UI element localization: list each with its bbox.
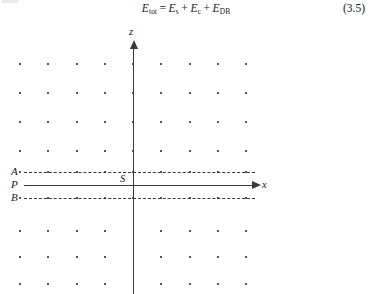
lattice-dot-r1-c0 — [19, 92, 21, 94]
lattice-dot-below-r2-c6 — [189, 283, 191, 285]
lattice-dot-r2-c6 — [189, 121, 191, 123]
z-axis-arrow-icon — [130, 40, 138, 49]
lattice-dot-below-r1-c5 — [160, 256, 162, 258]
lattice-dot-r0-c5 — [160, 63, 162, 65]
equation-number: (3.5) — [343, 2, 365, 14]
lattice-dot-below-r0-c1 — [47, 230, 49, 232]
lattice-dot-below-r2-c2 — [76, 283, 78, 285]
lattice-dot-r0-c7 — [217, 63, 219, 65]
x-axis-arrow-icon — [252, 181, 261, 189]
lattice-dot-below-r2-c8 — [245, 283, 247, 285]
lattice-dot-below-r1-c0 — [19, 256, 21, 258]
lattice-dot-below-r1-c8 — [245, 256, 247, 258]
line-p-label: P — [11, 179, 18, 190]
lattice-dot-below-r1-c1 — [47, 256, 49, 258]
lattice-dot-r0-c3 — [104, 63, 106, 65]
lattice-dot-r0-c6 — [189, 63, 191, 65]
lattice-dot-r3-c2 — [76, 150, 78, 152]
lattice-dot-below-r2-c0 — [19, 283, 21, 285]
origin-point-label: S — [120, 174, 125, 185]
lattice-dot-r1-c3 — [104, 92, 106, 94]
lattice-dot-r0-c8 — [245, 63, 247, 65]
lattice-dot-below-r0-c2 — [76, 230, 78, 232]
reference-line-b — [24, 198, 255, 199]
lattice-dot-r1-c2 — [76, 92, 78, 94]
lattice-dot-below-r1-c2 — [76, 256, 78, 258]
lattice-dot-r3-c0 — [19, 150, 21, 152]
x-axis-label: x — [262, 180, 267, 191]
lattice-dot-r2-c0 — [19, 121, 21, 123]
lattice-dot-below-r2-c7 — [217, 283, 219, 285]
lattice-dot-r3-c8 — [245, 150, 247, 152]
figure-canvas: z x A P B S — [0, 24, 372, 294]
z-axis-label: z — [129, 27, 133, 38]
equation-plus-2: + — [201, 2, 213, 14]
lattice-dot-below-r0-c3 — [104, 230, 106, 232]
equation-lhs-symbol: E — [142, 2, 149, 14]
equation-equals-sign: = — [157, 2, 169, 14]
lattice-dot-r2-c5 — [160, 121, 162, 123]
line-b-label: B — [11, 192, 18, 203]
lattice-dot-below-r0-c0 — [19, 230, 21, 232]
equation-term-3-symbol: E — [213, 2, 220, 14]
lattice-dot-below-r1-c6 — [189, 256, 191, 258]
line-a-label: A — [11, 166, 18, 177]
lattice-dot-r0-c0 — [19, 63, 21, 65]
lattice-dot-below-r0-c8 — [245, 230, 247, 232]
lattice-dot-below-r0-c5 — [160, 230, 162, 232]
equation-term-3-subscript: DB — [220, 7, 230, 16]
lattice-dot-r1-c7 — [217, 92, 219, 94]
reference-line-a — [24, 172, 255, 173]
equation-term-1-symbol: E — [169, 2, 176, 14]
lattice-dot-below-r1-c7 — [217, 256, 219, 258]
lattice-dot-r3-c5 — [160, 150, 162, 152]
lattice-dot-r3-c7 — [217, 150, 219, 152]
equation-term-1-subscript: s — [176, 7, 179, 16]
lattice-dot-below-r2-c3 — [104, 283, 106, 285]
equation-expression: Etot=Es+Ec+EDB — [0, 2, 372, 14]
lattice-dot-r3-c6 — [189, 150, 191, 152]
lattice-dot-below-r0-c6 — [189, 230, 191, 232]
x-axis-line — [24, 185, 257, 186]
lattice-dot-below-r2-c5 — [160, 283, 162, 285]
lattice-dot-r3-c3 — [104, 150, 106, 152]
equation-plus-1: + — [179, 2, 191, 14]
z-axis-line — [133, 47, 134, 294]
lattice-dot-r0-c2 — [76, 63, 78, 65]
lattice-dot-r2-c3 — [104, 121, 106, 123]
equation-term-2-subscript: c — [198, 7, 201, 16]
coordinate-figure: z x A P B S — [0, 24, 372, 294]
equation-row: Etot=Es+Ec+EDB (3.5) — [0, 0, 372, 24]
lattice-dot-r1-c5 — [160, 92, 162, 94]
lattice-dot-r3-c1 — [47, 150, 49, 152]
lattice-dot-line-b-c0 — [19, 197, 21, 199]
lattice-dot-r2-c8 — [245, 121, 247, 123]
lattice-dot-r1-c1 — [47, 92, 49, 94]
lattice-dot-r1-c8 — [245, 92, 247, 94]
lattice-dot-r2-c1 — [47, 121, 49, 123]
equation-term-2-symbol: E — [190, 2, 197, 14]
lattice-dot-r1-c6 — [189, 92, 191, 94]
equation-lhs-subscript: tot — [149, 7, 157, 16]
lattice-dot-r2-c2 — [76, 121, 78, 123]
lattice-dot-below-r0-c7 — [217, 230, 219, 232]
lattice-dot-r0-c1 — [47, 63, 49, 65]
lattice-dot-below-r1-c3 — [104, 256, 106, 258]
lattice-dot-line-a-c0 — [19, 171, 21, 173]
figure-page: Etot=Es+Ec+EDB (3.5) z x A P B S — [0, 0, 372, 294]
lattice-dot-r2-c7 — [217, 121, 219, 123]
lattice-dot-below-r2-c1 — [47, 283, 49, 285]
